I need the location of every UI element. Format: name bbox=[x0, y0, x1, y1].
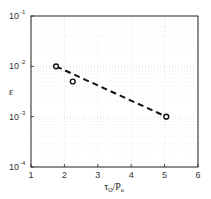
x-tick-label: 2 bbox=[62, 170, 67, 180]
x-tick-label: 4 bbox=[129, 170, 134, 180]
x-axis-label: τO/Pu bbox=[104, 181, 124, 193]
data-series bbox=[54, 64, 169, 119]
plot-frame bbox=[31, 16, 198, 167]
data-point bbox=[164, 114, 169, 119]
y-tick-exponent: -3 bbox=[20, 110, 26, 116]
x-tick-label: 1 bbox=[28, 170, 33, 180]
fit-line bbox=[56, 66, 166, 116]
grid-lines bbox=[31, 16, 198, 167]
x-tick-label: 5 bbox=[162, 170, 167, 180]
y-tick-label: 10 bbox=[9, 162, 19, 172]
y-tick-exponent: -4 bbox=[20, 160, 26, 166]
data-point bbox=[70, 79, 75, 84]
y-tick-label: 10 bbox=[9, 112, 19, 122]
y-tick-exponent: -1 bbox=[20, 9, 26, 15]
x-tick-label: 3 bbox=[95, 170, 100, 180]
x-axis-ticks: 123456 bbox=[28, 164, 200, 180]
y-tick-exponent: -2 bbox=[20, 59, 26, 65]
y-axis-label: ε bbox=[9, 86, 13, 97]
chart: 123456 10-110-210-310-4 ε τO/Pu bbox=[0, 0, 211, 199]
y-tick-label: 10 bbox=[9, 61, 19, 71]
y-tick-label: 10 bbox=[9, 11, 19, 21]
x-tick-label: 6 bbox=[195, 170, 200, 180]
data-point bbox=[54, 64, 59, 69]
